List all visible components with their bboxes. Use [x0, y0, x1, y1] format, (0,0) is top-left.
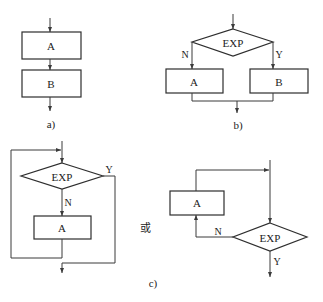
while-yes-label: Y	[105, 164, 112, 175]
until-box-a-label: A	[193, 198, 201, 209]
sel-box-b-label: B	[275, 77, 282, 88]
caption-b: b)	[233, 120, 242, 131]
until-no-label: N	[214, 226, 221, 237]
sel-condition-label: EXP	[223, 38, 244, 49]
sequence-structure	[22, 18, 81, 111]
caption-a: a)	[47, 119, 56, 130]
caption-c: c)	[149, 278, 158, 289]
while-box-a-label: A	[58, 223, 66, 234]
seq-box-b-label: B	[47, 79, 54, 90]
until-condition-label: EXP	[260, 233, 281, 244]
do-until-loop-structure	[170, 160, 307, 277]
sel-no-label: N	[181, 49, 188, 60]
selection-structure	[166, 14, 308, 113]
or-text: 或	[140, 223, 151, 234]
while-condition-label: EXP	[52, 172, 73, 183]
seq-box-a-label: A	[47, 41, 55, 52]
while-no-label: N	[64, 197, 71, 208]
until-yes-label: Y	[273, 256, 280, 267]
sel-box-a-label: A	[190, 77, 198, 88]
sel-yes-label: Y	[275, 49, 282, 60]
while-loop-structure	[11, 141, 115, 273]
